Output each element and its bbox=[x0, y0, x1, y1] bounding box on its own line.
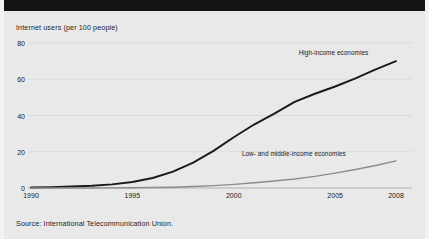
x-tick-label-2005: 2005 bbox=[318, 192, 352, 199]
series-line-1 bbox=[31, 161, 396, 188]
y-tick-label-60: 60 bbox=[3, 76, 25, 83]
y-tick-label-0: 0 bbox=[3, 185, 25, 192]
x-tick-label-1995: 1995 bbox=[115, 192, 149, 199]
plot-area bbox=[0, 0, 429, 239]
chart-svg bbox=[0, 0, 429, 239]
x-tick-label-2000: 2000 bbox=[217, 192, 251, 199]
series-label-0: High-income economies bbox=[299, 49, 369, 56]
source-note: Source: International Telecommunication … bbox=[16, 219, 173, 228]
y-tick-label-40: 40 bbox=[3, 112, 25, 119]
x-tick-label-1990: 1990 bbox=[14, 192, 48, 199]
x-tick-label-2008: 2008 bbox=[379, 192, 413, 199]
series-line-0 bbox=[31, 61, 396, 187]
y-tick-label-20: 20 bbox=[3, 148, 25, 155]
figure-container: Internet users (per 100 people) 02040608… bbox=[0, 0, 429, 239]
y-tick-label-80: 80 bbox=[3, 40, 25, 47]
series-label-1: Low- and middle-income economies bbox=[242, 150, 346, 157]
